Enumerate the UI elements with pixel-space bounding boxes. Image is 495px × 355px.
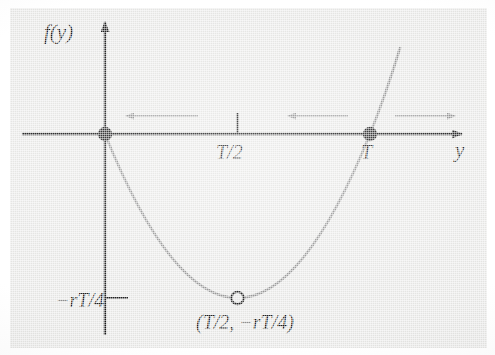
equilibrium-point-T xyxy=(363,127,377,141)
tick-label-t-half: T/2 xyxy=(216,142,243,162)
vertex-coordinate-label: (T/2, −rT/4) xyxy=(196,312,294,332)
tick-label-minus-rt-over-4: −rT/4 xyxy=(56,290,104,310)
figure-container: f(y) y T/2 T −rT/4 (T/2, −rT/4) xyxy=(0,0,495,355)
parabola-curve xyxy=(105,48,400,298)
tick-label-T: T xyxy=(361,142,372,162)
vertical-axis-label: f(y) xyxy=(44,22,73,43)
equilibrium-point-origin xyxy=(98,127,112,141)
horizontal-axis-label: y xyxy=(455,140,464,161)
vertex-point xyxy=(231,292,243,304)
